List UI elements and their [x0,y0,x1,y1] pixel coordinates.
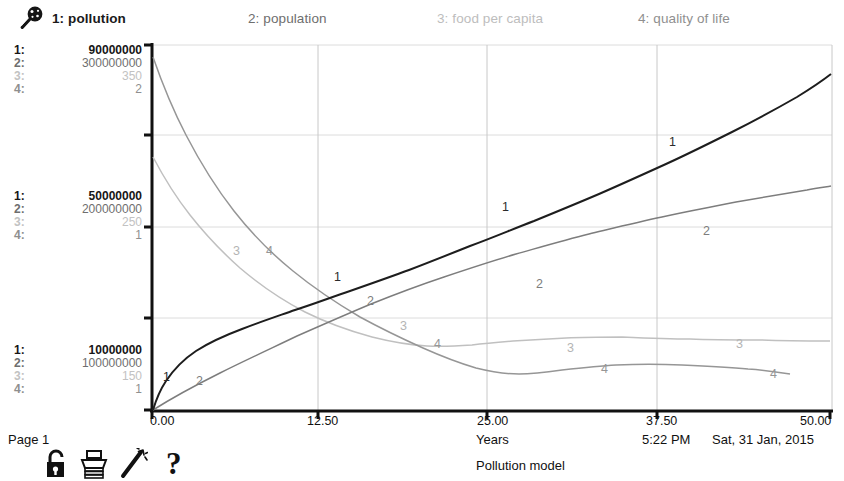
curve-label-1-mid: 1 [334,270,341,284]
page-number: Page 1 [8,432,49,447]
curve-label-1-far: 1 [669,135,676,149]
timestamp-time: 5:22 PM [642,432,690,447]
model-title: Pollution model [476,458,565,473]
curve-label-2-far: 2 [703,224,710,238]
x-axis-tick-labels: 0.00 12.50 25.00 37.50 50.00 [0,414,844,430]
curve-label-1-right: 1 [502,200,509,214]
curve-label-2-left: 2 [196,374,203,388]
report-page: 1: pollution 2: population 3: food per c… [0,0,844,481]
x-tick-1: 12.50 [307,414,338,428]
x-tick-4: 50.00 [800,414,831,428]
printer-icon[interactable] [80,448,108,481]
magic-wand-icon[interactable] [118,448,148,481]
curve-label-1-left: 1 [163,370,170,384]
chart-plot-area: 1 2 3 4 1 2 3 4 1 2 3 4 1 2 3 4 [0,0,844,481]
curve-label-3-rightmid: 3 [567,341,574,355]
curve-label-4-far: 4 [770,367,777,381]
bottom-toolbar: ? [44,448,224,481]
curve-label-4-left: 4 [266,244,273,258]
padlock-icon[interactable] [44,448,68,481]
vertical-gridlines [318,45,832,411]
curve-label-3-left: 3 [233,244,240,258]
x-tick-0: 0.00 [150,414,174,428]
curve-inline-labels: 1 2 3 4 1 2 3 4 1 2 3 4 1 2 3 4 [163,135,777,388]
curve-label-2-rightmid: 2 [536,277,543,291]
horizontal-gridlines [152,45,832,318]
curve-label-3-mid: 3 [400,319,407,333]
curve-label-3-far: 3 [736,337,743,351]
curve-label-2-mid: 2 [367,294,374,308]
x-axis-title: Years [476,432,509,447]
curve-label-4-rightmid: 4 [601,362,608,376]
timestamp-date: Sat, 31 Jan, 2015 [712,432,814,447]
x-tick-3: 37.50 [646,414,677,428]
question-mark-icon[interactable]: ? [166,448,182,479]
curve-label-4-mid: 4 [434,337,441,351]
x-tick-2: 25.00 [477,414,508,428]
series-line-pollution [153,74,831,410]
series-line-population [153,186,831,410]
